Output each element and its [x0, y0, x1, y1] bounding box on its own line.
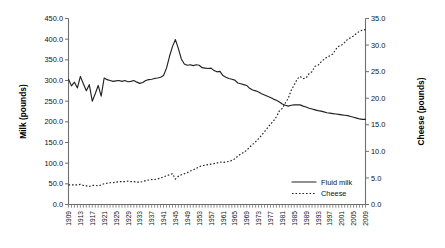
x-axis-tick-label: 1973 [255, 211, 262, 226]
x-axis-tick-label: 1953 [196, 211, 203, 226]
right-axis-tick-label: 25.0 [371, 67, 385, 76]
x-axis-tick-label: 1989 [303, 211, 310, 226]
x-axis-tick-label: 1917 [89, 211, 96, 226]
x-axis-tick-label: 1985 [291, 211, 298, 226]
x-axis-tick-label: 1933 [136, 211, 143, 226]
right-axis-tick-label: 30.0 [371, 41, 385, 50]
left-axis-tick-label: 150.0 [45, 138, 64, 147]
legend-label-cheese: Cheese [321, 189, 346, 198]
right-axis-tick-label: 5.0 [371, 174, 381, 183]
x-axis-tick-label: 1941 [160, 211, 167, 226]
x-axis-tick-label: 1925 [113, 211, 120, 226]
left-axis-title: Milk (pounds) [18, 84, 28, 139]
x-axis-tick-label: 1993 [315, 211, 322, 226]
left-axis-tick-label: 400.0 [45, 35, 64, 44]
x-axis-tick-label: 1909 [65, 211, 72, 226]
chart-container: 0.050.0100.0150.0200.0250.0300.0350.0400… [0, 0, 445, 248]
right-axis-title: Cheese (pounds) [416, 77, 426, 145]
x-axis-tick-label: 1937 [148, 211, 155, 226]
legend-label-fluid-milk: Fluid milk [321, 178, 353, 187]
left-axis-tick-label: 350.0 [45, 55, 64, 64]
x-axis-tick-label: 1969 [243, 211, 250, 226]
left-axis-tick-label: 250.0 [45, 97, 64, 106]
left-axis-tick-label: 0.0 [53, 200, 63, 209]
x-axis-tick-label: 1981 [279, 211, 286, 226]
left-axis-tick-label: 200.0 [45, 117, 64, 126]
x-axis-tick-label: 1997 [326, 211, 333, 226]
x-axis-tick-label: 1949 [184, 211, 191, 226]
right-axis-tick-label: 0.0 [371, 200, 381, 209]
x-axis-tick-label: 1965 [231, 211, 238, 226]
left-axis-tick-label: 100.0 [45, 159, 64, 168]
right-axis-tick-label: 35.0 [371, 14, 385, 23]
x-axis-tick-label: 2005 [350, 211, 357, 226]
x-axis-tick-label: 1929 [125, 211, 132, 226]
x-axis-tick-label: 1977 [267, 211, 274, 226]
x-axis-tick-label: 1945 [172, 211, 179, 226]
x-axis-tick-label: 1957 [208, 211, 215, 226]
x-axis-tick-label: 1921 [101, 211, 108, 226]
x-axis-tick-label: 2009 [362, 211, 369, 226]
x-axis-tick-label: 1961 [220, 211, 227, 226]
x-axis-tick-label: 1913 [77, 211, 84, 226]
left-axis-tick-label: 300.0 [45, 76, 64, 85]
left-axis-tick-label: 50.0 [49, 179, 63, 188]
right-axis-tick-label: 10.0 [371, 147, 385, 156]
right-axis-tick-label: 15.0 [371, 120, 385, 129]
left-axis-tick-label: 450.0 [45, 14, 64, 23]
dual-axis-line-chart: 0.050.0100.0150.0200.0250.0300.0350.0400… [0, 0, 445, 248]
x-axis-tick-label: 2001 [338, 211, 345, 226]
right-axis-tick-label: 20.0 [371, 94, 385, 103]
